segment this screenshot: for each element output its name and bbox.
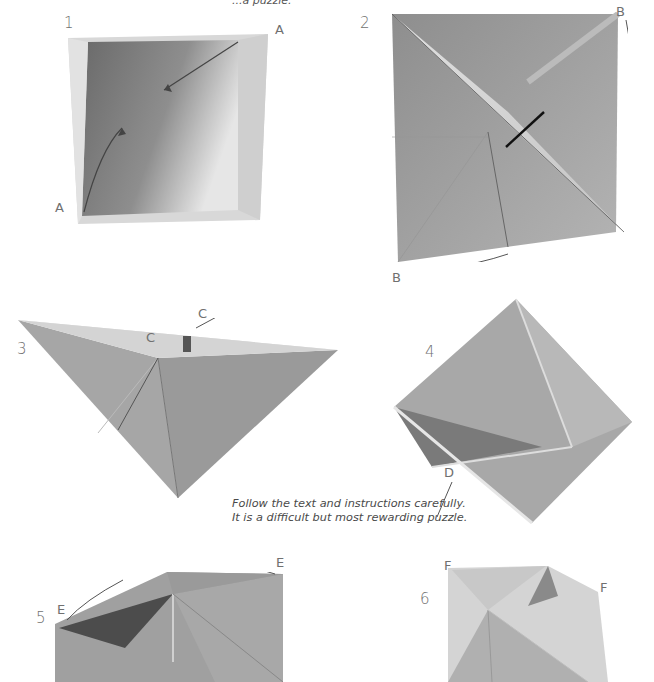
instruction-caption: Follow the text and instructions careful… — [232, 497, 467, 525]
step-5-label-e-left: E — [57, 602, 65, 617]
step-2-photo: B B — [388, 12, 628, 262]
step-6-label-f-right: F — [600, 580, 607, 595]
step-3-label-c-top: C — [198, 306, 207, 321]
step-4-number: 4 — [425, 343, 435, 361]
step-6-number: 6 — [420, 590, 430, 608]
step-1-label-a-top: A — [275, 22, 284, 37]
step-2-label-b-bottom: B — [392, 270, 401, 285]
caption-line-2: It is a difficult but most rewarding puz… — [232, 511, 467, 525]
step-4-label-d: D — [444, 465, 454, 480]
caption-line-1: Follow the text and instructions careful… — [232, 497, 467, 511]
step-3-label-c-side: C — [146, 330, 155, 345]
step-3-photo: C C — [18, 318, 338, 498]
step-4-photo: D — [392, 297, 632, 527]
origami-instruction-page: ...a puzzle. A A 1 — [0, 0, 654, 682]
top-text-fragment: ...a puzzle. — [232, 0, 292, 7]
step-1-number: 1 — [64, 14, 74, 32]
step-5-number: 5 — [36, 609, 46, 627]
step-5-photo: E E — [55, 572, 290, 682]
step-6-photo: F F — [448, 566, 618, 682]
step-2-number: 2 — [360, 14, 370, 32]
step-2-label-b-top: B — [616, 4, 625, 19]
step-3-number: 3 — [17, 340, 27, 358]
step-5-label-e-right: E — [276, 555, 284, 570]
step-1-photo: A A — [60, 30, 290, 230]
step-6-label-f-left: F — [444, 558, 451, 573]
step-1-label-a-bottom: A — [55, 200, 64, 215]
